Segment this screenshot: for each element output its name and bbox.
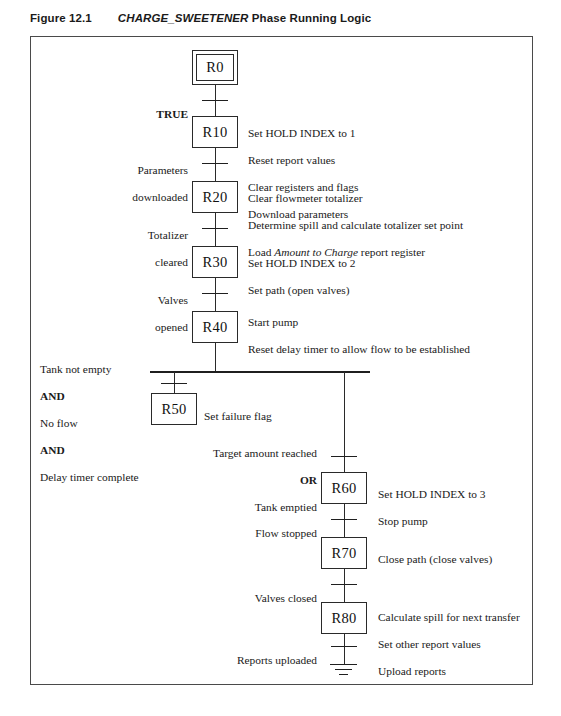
action-r30-2: Set path (open valves): [248, 284, 533, 298]
transition-r70-r80[interactable]: [331, 584, 357, 585]
terminator-ground-line-3: [339, 674, 348, 675]
step-r60-label: R60: [332, 481, 357, 496]
step-r80[interactable]: R80: [321, 602, 367, 634]
action-r80-2: Set other report values: [378, 638, 536, 652]
transition-r60-r70[interactable]: [331, 519, 357, 520]
figure-number: Figure 12.1: [30, 12, 92, 24]
divergence-bar: [150, 371, 370, 373]
actions-r60: Set HOLD INDEX to 3 Stop pump: [378, 474, 533, 542]
condition-true: TRUE: [60, 94, 188, 135]
condition-valves-closed-label: Valves closed: [190, 592, 317, 606]
step-r80-label: R80: [332, 611, 357, 626]
condition-totalizer-cleared-l1: Totalizer: [50, 229, 188, 243]
action-r10-2: Reset report values: [248, 154, 533, 168]
condition-totalizer-cleared: Totalizer cleared: [50, 215, 188, 283]
action-r20-1: Clear flowmeter totalizer: [248, 192, 536, 206]
step-r20-label: R20: [203, 190, 228, 205]
condition-parameters-downloaded-l1: Parameters: [50, 164, 188, 178]
condition-failure: Tank not empty AND No flow AND Delay tim…: [40, 349, 160, 499]
actions-r30: Set HOLD INDEX to 2 Set path (open valve…: [248, 243, 533, 311]
condition-failure-and-1: AND: [40, 390, 160, 404]
condition-true-label: TRUE: [60, 108, 188, 122]
link-r70-r80: [344, 569, 345, 602]
link-r10-r20: [215, 148, 216, 181]
condition-reports-uploaded: Reports uploaded: [190, 640, 317, 681]
condition-valves-closed: Valves closed: [190, 578, 317, 619]
link-r80-end: [344, 634, 345, 665]
terminator-ground-line-1: [330, 664, 357, 665]
condition-parameters-downloaded-l2: downloaded: [50, 191, 188, 205]
step-r10-label: R10: [203, 125, 228, 140]
step-r0-inner: R0: [196, 54, 234, 81]
condition-parameters-downloaded: Parameters downloaded: [50, 150, 188, 218]
condition-failure-l1: Tank not empty: [40, 363, 160, 377]
actions-r40: Start pump Reset delay timer to allow fl…: [248, 302, 536, 370]
actions-r80: Calculate spill for next transfer Set ot…: [378, 597, 536, 692]
action-r30-1: Set HOLD INDEX to 2: [248, 257, 533, 271]
actions-r50: Set failure flag: [204, 396, 384, 437]
condition-valves-opened: Valves opened: [50, 280, 188, 348]
step-r40[interactable]: R40: [192, 311, 238, 343]
condition-flow-stopped-label: Flow stopped: [190, 527, 317, 541]
action-r40-1: Start pump: [248, 316, 536, 330]
step-r60[interactable]: R60: [321, 472, 367, 504]
step-r70-label: R70: [332, 546, 357, 561]
condition-target-reached-or: OR: [185, 474, 317, 488]
step-r30-label: R30: [203, 255, 228, 270]
link-r20-r30: [215, 213, 216, 246]
terminator-ground-line-2: [335, 669, 352, 670]
condition-totalizer-cleared-l2: cleared: [50, 256, 188, 270]
action-r70-1: Close path (close valves): [378, 553, 533, 567]
condition-failure-l2: No flow: [40, 417, 160, 431]
step-r50-label: R50: [162, 402, 187, 417]
link-r60-r70: [344, 504, 345, 537]
action-r40-2: Reset delay timer to allow flow to be es…: [248, 343, 536, 357]
link-divergence-r60: [344, 372, 345, 472]
transition-r0-r10[interactable]: [202, 100, 228, 101]
transition-r40-r60[interactable]: [331, 456, 357, 457]
condition-reports-uploaded-label: Reports uploaded: [190, 654, 317, 668]
figure-title-emphasis: CHARGE_SWEETENER: [118, 12, 249, 24]
figure-caption: Figure 12.1CHARGE_SWEETENER Phase Runnin…: [30, 12, 530, 32]
condition-valves-opened-l1: Valves: [50, 294, 188, 308]
figure-title: CHARGE_SWEETENER Phase Running Logic: [118, 12, 371, 24]
transition-r30-r40[interactable]: [202, 293, 228, 294]
condition-failure-l3: Delay timer complete: [40, 471, 160, 485]
condition-failure-and-2: AND: [40, 444, 160, 458]
figure-title-rest: Phase Running Logic: [249, 12, 372, 24]
action-r50-1: Set failure flag: [204, 410, 384, 424]
condition-flow-stopped: Flow stopped: [190, 513, 317, 554]
transition-r80-end[interactable]: [331, 646, 357, 647]
action-r10-1: Set HOLD INDEX to 1: [248, 127, 533, 141]
step-r10[interactable]: R10: [192, 116, 238, 148]
transition-r20-r30[interactable]: [202, 228, 228, 229]
action-r20-2: Determine spill and calculate totalizer …: [248, 219, 536, 233]
condition-target-reached-l1: Target amount reached: [185, 447, 317, 461]
action-r60-1: Set HOLD INDEX to 3: [378, 488, 533, 502]
step-r30[interactable]: R30: [192, 246, 238, 278]
condition-valves-opened-l2: opened: [50, 321, 188, 335]
action-r60-2: Stop pump: [378, 515, 533, 529]
action-r80-3: Upload reports: [378, 665, 536, 679]
actions-r70: Close path (close valves): [378, 539, 533, 580]
step-r20[interactable]: R20: [192, 181, 238, 213]
step-r0-label: R0: [206, 60, 223, 75]
link-r40-divergence: [215, 343, 216, 372]
step-r70[interactable]: R70: [321, 537, 367, 569]
transition-r40-r50[interactable]: [161, 383, 187, 384]
step-r0[interactable]: R0: [192, 50, 238, 85]
action-r80-1: Calculate spill for next transfer: [378, 611, 536, 625]
step-r50[interactable]: R50: [151, 393, 197, 425]
transition-r10-r20[interactable]: [202, 163, 228, 164]
link-r30-r40: [215, 278, 216, 311]
step-r40-label: R40: [203, 320, 228, 335]
